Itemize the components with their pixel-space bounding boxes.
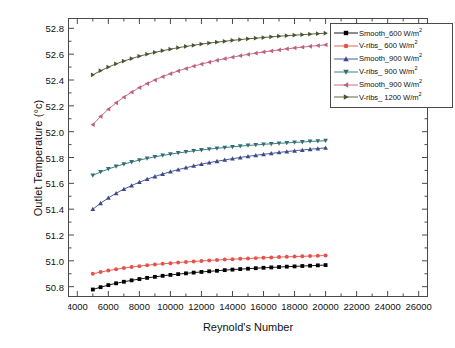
series-marker xyxy=(324,31,328,36)
series-marker xyxy=(169,273,173,277)
series-marker xyxy=(130,278,134,282)
series-marker xyxy=(129,90,133,95)
series-marker xyxy=(114,61,118,66)
legend-marker-icon xyxy=(333,91,359,103)
series-marker xyxy=(223,39,227,44)
series-marker xyxy=(300,45,304,50)
legend-item[interactable]: V-ribs_ 900 W/m2 xyxy=(333,65,450,78)
series-marker xyxy=(316,254,320,258)
series-marker xyxy=(269,34,273,39)
series-marker xyxy=(168,261,172,265)
series-marker xyxy=(277,255,281,259)
series-marker xyxy=(238,267,242,271)
series-marker xyxy=(91,272,95,276)
series-marker xyxy=(114,191,119,195)
series-marker xyxy=(308,44,312,49)
series-marker xyxy=(300,32,304,37)
series-marker xyxy=(246,267,250,271)
series-marker xyxy=(184,44,188,49)
y-tick-label: 50.8 xyxy=(30,281,64,292)
series-marker xyxy=(184,271,188,275)
y-tick-label: 51.0 xyxy=(30,255,64,266)
series-marker xyxy=(238,257,242,261)
legend-item[interactable]: Smooth_900 W/m2 xyxy=(333,53,450,66)
series-marker xyxy=(191,64,195,69)
series-marker xyxy=(308,264,312,268)
series-marker xyxy=(153,50,157,55)
series-marker xyxy=(269,49,273,54)
series-marker xyxy=(293,33,297,38)
legend-label: Smooth_600 W/m2 xyxy=(359,30,422,38)
legend-item[interactable]: Smooth_900 W/m2 xyxy=(333,78,450,91)
legend-item[interactable]: V-ribs_ 600 W/m2 xyxy=(333,40,450,53)
series-marker xyxy=(246,36,250,41)
series-marker xyxy=(292,46,296,51)
series-marker xyxy=(161,262,165,266)
series-marker xyxy=(169,47,173,52)
series-marker xyxy=(176,272,180,276)
series-marker xyxy=(122,266,126,270)
series-marker xyxy=(230,257,234,261)
series-marker xyxy=(160,74,164,79)
legend-label: Smooth_900 W/m2 xyxy=(359,81,422,89)
x-axis-tick-labels: 4000600080001000012000140001600018000200… xyxy=(68,301,454,317)
legend-marker-icon xyxy=(333,40,359,52)
series-marker xyxy=(253,51,257,56)
data-series xyxy=(91,31,328,77)
series-marker xyxy=(262,266,266,270)
y-tick-label: 52.2 xyxy=(30,100,64,111)
series-marker xyxy=(192,271,196,275)
legend-label: V-ribs_ 900 W/m2 xyxy=(359,68,417,76)
series-marker xyxy=(137,277,141,281)
series-line xyxy=(93,265,326,289)
series-marker xyxy=(231,268,235,272)
series-marker xyxy=(153,78,157,83)
data-series xyxy=(90,139,328,178)
series-marker xyxy=(223,258,227,262)
y-tick-label: 51.2 xyxy=(30,230,64,241)
series-marker xyxy=(277,265,281,269)
chart-figure: Outlet Temperature (°c) 50.851.051.251.4… xyxy=(0,0,455,348)
legend-marker-icon xyxy=(333,66,359,78)
series-marker xyxy=(200,42,204,47)
series-marker xyxy=(114,281,118,285)
series-marker xyxy=(145,276,149,280)
series-marker xyxy=(308,254,312,258)
series-marker xyxy=(277,48,281,53)
legend-item[interactable]: Smooth_600 W/m2 xyxy=(333,27,450,40)
series-marker xyxy=(137,264,141,268)
series-marker xyxy=(207,41,211,46)
series-marker xyxy=(254,256,258,260)
series-marker xyxy=(106,269,110,273)
y-tick-label: 51.4 xyxy=(30,204,64,215)
legend-marker-icon xyxy=(333,53,359,65)
y-tick-label: 52.0 xyxy=(30,126,64,137)
series-marker xyxy=(215,40,219,45)
series-marker xyxy=(269,255,273,259)
legend-marker-icon xyxy=(333,79,359,91)
series-marker xyxy=(168,71,172,76)
series-marker xyxy=(99,68,103,73)
legend-item[interactable]: V-ribs_ 1200 W/m2 xyxy=(333,91,450,104)
series-marker xyxy=(293,255,297,259)
series-marker xyxy=(254,266,258,270)
series-line xyxy=(93,45,326,125)
series-marker xyxy=(192,43,196,48)
series-marker xyxy=(293,264,297,268)
y-tick-label: 52.8 xyxy=(30,23,64,34)
series-marker xyxy=(324,254,328,258)
series-marker xyxy=(192,259,196,263)
series-marker xyxy=(176,69,180,74)
series-marker xyxy=(231,38,235,43)
y-tick-label: 52.6 xyxy=(30,49,64,60)
series-marker xyxy=(238,37,242,42)
series-marker xyxy=(130,265,134,269)
series-marker xyxy=(315,43,319,48)
series-marker xyxy=(300,254,304,258)
series-marker xyxy=(184,66,188,71)
series-marker xyxy=(90,173,95,177)
series-marker xyxy=(121,187,126,191)
series-marker xyxy=(277,34,281,39)
series-line xyxy=(93,33,326,75)
series-marker xyxy=(153,262,157,266)
